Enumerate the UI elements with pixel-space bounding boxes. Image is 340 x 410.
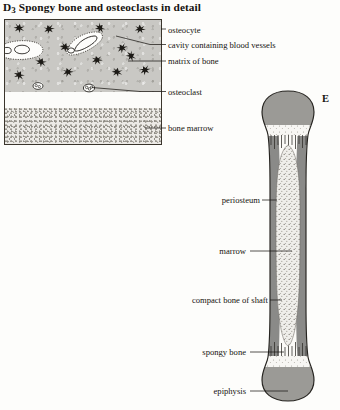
label-epiphysis: epiphysis <box>110 387 246 396</box>
label-spongy-bone: spongy bone <box>110 348 246 357</box>
label-matrix-of-bone: matrix of bone <box>168 57 219 66</box>
figure-canvas: D3 Spongy bone and osteoclasts in detail <box>0 0 340 410</box>
label-compact-bone: compact bone of shaft <box>100 296 268 305</box>
label-marrow: marrow <box>110 247 246 256</box>
label-bone-marrow: bone marrow <box>168 124 214 133</box>
label-cavity: cavity containing blood vessels <box>168 41 276 50</box>
label-osteoclast: osteoclast <box>168 88 202 97</box>
label-osteocyte: osteocyte <box>168 26 200 35</box>
leader-cavity <box>116 36 166 45</box>
label-periosteum: periosteum <box>110 196 260 205</box>
leader-osteoclast <box>92 88 166 92</box>
